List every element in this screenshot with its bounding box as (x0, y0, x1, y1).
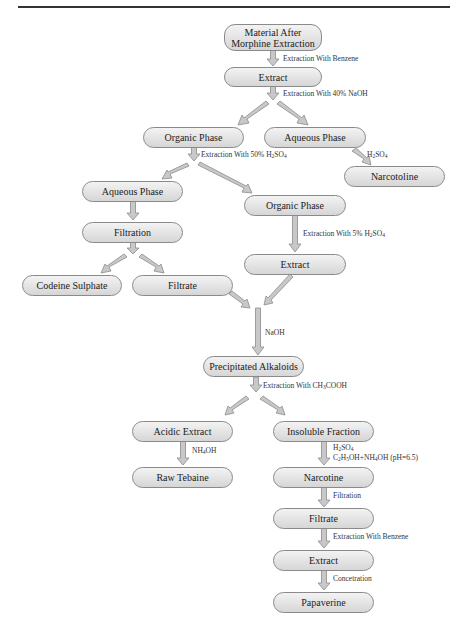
edge-label-nh4oh: NH4OH (192, 446, 216, 455)
node-narcotoline: Narcotoline (344, 166, 445, 187)
node-material-after-morphine-extraction: Material After Morphine Extraction (224, 24, 322, 51)
node-precipitated-alkaloids: Precipitated Alkaloids (203, 356, 304, 377)
node-extract-3: Extract (273, 550, 374, 571)
node-aqueous-phase-1: Aqueous Phase (264, 127, 366, 148)
arrow-acidic-tebaine (177, 441, 189, 465)
edge-label-extraction-h2so4-50: Extraction With 50% H2SO4 (201, 150, 287, 159)
node-organic-phase-1: Organic Phase (143, 127, 244, 148)
node-label-line1: Material After (245, 27, 302, 38)
node-label-line2: Morphine Extraction (231, 38, 315, 49)
arrow-material-extract (267, 50, 279, 66)
arrow-extract-split (267, 86, 279, 100)
arrow-extract2-merge (264, 274, 293, 305)
node-filtrate-2: Filtrate (273, 508, 374, 529)
edge-label-concentration: Concetration (333, 574, 372, 583)
arrow-narcotine-filtrate2 (318, 487, 330, 507)
arrow-extract3-papaverine (318, 570, 330, 590)
arrow-organic1-split (188, 147, 200, 161)
node-acidic-extract: Acidic Extract (132, 421, 233, 442)
edge-label-extraction-acetic-acid: Extraction With CH3COOH (263, 381, 347, 390)
node-narcotine: Narcotine (273, 467, 374, 488)
edge-label-extraction-naoh-40: Extraction With 40% NaOH (283, 89, 368, 98)
edge-label-insoluble-ethanol-ammonia: C2H5OH+NH4OH (pH=6.5) (333, 453, 418, 462)
arrow-filtrate1-merge (229, 291, 250, 308)
edge-label-insoluble-h2so4: H2SO4 (333, 443, 354, 452)
arrow-insoluble-narcotine (318, 441, 330, 465)
node-filtrate-1: Filtrate (132, 275, 233, 296)
arrow-merge-precip (252, 308, 264, 355)
arrow-aqueous2-filtration (127, 201, 139, 220)
edge-label-h2so4-narcotoline: H2SO4 (367, 150, 388, 159)
arrow-to-acidic (225, 396, 249, 415)
node-extract-2: Extract (244, 254, 346, 275)
arrow-organic2-extract2 (289, 215, 301, 252)
arrow-to-organic2 (198, 162, 252, 193)
arrow-to-aqueous1 (277, 101, 308, 125)
arrow-to-filtrate1 (139, 254, 164, 273)
node-insoluble-fraction: Insoluble Fraction (273, 421, 374, 442)
arrow-precip-split (250, 377, 262, 392)
node-papaverine: Papaverine (273, 592, 374, 613)
node-extract-1: Extract (224, 67, 322, 87)
edge-label-extraction-h2so4-5: Extraction With 5% H2SO4 (303, 229, 385, 238)
edge-label-extraction-benzene-2: Extraction With Benzene (333, 532, 408, 541)
edge-label-filtration: Filtration (333, 491, 361, 500)
arrow-filtration-split (127, 242, 139, 254)
arrow-to-organic1 (238, 101, 269, 125)
node-filtration: Filtration (82, 222, 183, 243)
edge-label-naoh: NaOH (265, 328, 285, 337)
node-raw-tebaine: Raw Tebaine (132, 467, 233, 488)
arrow-filtrate2-extract3 (318, 528, 330, 548)
node-aqueous-phase-2: Aqueous Phase (82, 181, 183, 202)
node-organic-phase-2: Organic Phase (244, 195, 346, 216)
arrow-to-codeine (101, 254, 127, 273)
arrow-to-aqueous2 (162, 163, 189, 179)
edge-label-extraction-benzene-1: Extraction With Benzene (283, 54, 358, 63)
arrow-to-insoluble (260, 396, 285, 415)
node-codeine-sulphate: Codeine Sulphate (22, 275, 122, 296)
